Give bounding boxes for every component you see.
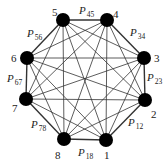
node-8 (57, 132, 71, 146)
edge-label-p56: P56 (26, 27, 42, 42)
graph-canvas: 12345678 P45P34P23P12P18P78P67P56 (0, 0, 166, 163)
edge-label-p45: P45 (78, 4, 94, 19)
edge-label-p34: P34 (129, 26, 145, 41)
edge-label-p67: P67 (6, 72, 22, 87)
edge-5-8 (63, 20, 64, 139)
edge-label-p23: P23 (146, 71, 162, 86)
edge-label-p78: P78 (30, 118, 46, 133)
node-6 (20, 51, 34, 65)
node-label-1: 1 (104, 149, 110, 161)
node-4 (100, 13, 114, 27)
node-label-3: 3 (154, 52, 160, 64)
edge-label-p18: P18 (77, 146, 93, 161)
node-7 (19, 92, 33, 106)
complete-graph-diagram: 12345678 P45P34P23P12P18P78P67P56 (0, 0, 166, 163)
node-label-7: 7 (12, 102, 18, 114)
node-label-2: 2 (151, 108, 157, 120)
edge-label-p12: P12 (127, 116, 143, 131)
edge-1-4 (106, 20, 107, 140)
node-label-6: 6 (11, 52, 17, 64)
edge-1-2 (106, 100, 145, 140)
node-5 (56, 13, 70, 27)
node-label-5: 5 (52, 6, 58, 18)
edge-2-7 (26, 99, 145, 100)
node-1 (99, 133, 113, 147)
edge-5-6 (27, 20, 63, 58)
edge-4-7 (26, 20, 107, 99)
node-3 (137, 51, 151, 65)
node-label-4: 4 (113, 8, 119, 20)
node-2 (138, 93, 152, 107)
node-label-8: 8 (55, 149, 61, 161)
